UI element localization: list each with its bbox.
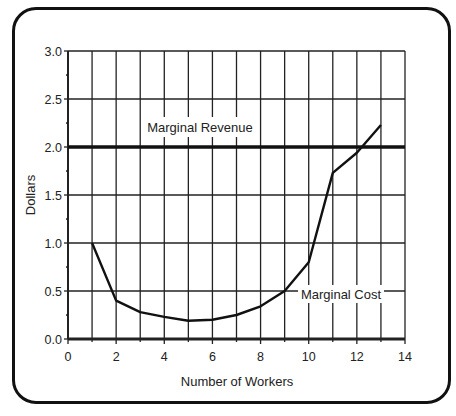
- x-axis-ticks: 02468101214: [65, 339, 412, 364]
- x-tick-label: 12: [350, 350, 364, 364]
- marginal-cost-label-group: Marginal Cost: [298, 285, 384, 303]
- y-axis-ticks: 0.00.51.01.52.02.53.0: [45, 45, 68, 347]
- x-axis-title: Number of Workers: [181, 374, 294, 389]
- y-tick-label: 1.5: [45, 189, 62, 203]
- line-chart: 0.00.51.01.52.02.53.0 02468101214 Margin…: [0, 0, 456, 416]
- x-tick-label: 4: [161, 350, 168, 364]
- marginal-revenue-label: Marginal Revenue: [147, 120, 253, 135]
- y-tick-label: 0.0: [45, 333, 62, 347]
- y-tick-label: 2.0: [45, 141, 62, 155]
- x-tick-label: 0: [65, 350, 72, 364]
- y-tick-label: 0.5: [45, 285, 62, 299]
- y-tick-label: 2.5: [45, 93, 62, 107]
- y-tick-label: 1.0: [45, 237, 62, 251]
- x-tick-label: 6: [209, 350, 216, 364]
- x-tick-label: 10: [302, 350, 316, 364]
- marginal-cost-label: Marginal Cost: [301, 287, 382, 302]
- x-tick-label: 8: [257, 350, 264, 364]
- y-axis-title: Dollars: [23, 174, 38, 215]
- x-tick-label: 2: [113, 350, 120, 364]
- y-tick-label: 3.0: [45, 45, 62, 59]
- marginal-revenue-label-group: Marginal Revenue: [143, 117, 257, 137]
- x-tick-label: 14: [398, 350, 412, 364]
